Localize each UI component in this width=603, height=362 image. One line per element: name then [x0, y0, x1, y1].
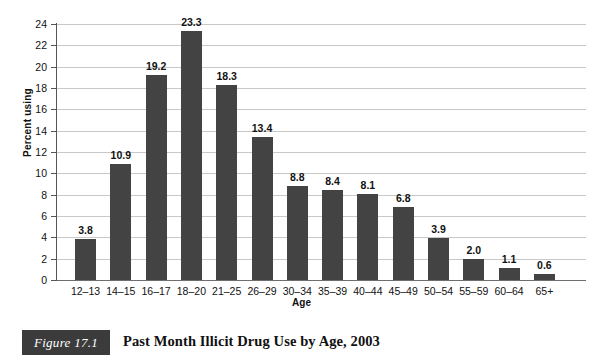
bar [252, 137, 273, 280]
bar [357, 194, 378, 280]
figure-caption: Figure 17.1 Past Month Illicit Drug Use … [0, 326, 603, 362]
y-axis-tick-label: 24 [7, 19, 47, 29]
bar [463, 259, 484, 280]
x-axis-title: Age [0, 297, 603, 308]
gridline [57, 88, 586, 89]
bar-chart: Percent using 024681012141618202224 3.81… [0, 0, 603, 318]
bar [146, 75, 167, 280]
figure-container: Percent using 024681012141618202224 3.81… [0, 0, 603, 362]
gridline [57, 45, 586, 46]
bar [216, 85, 237, 280]
y-axis-tick-label: 12 [7, 147, 47, 157]
y-axis-tick-label: 2 [7, 254, 47, 264]
gridline [57, 24, 586, 25]
bar-value-label: 8.1 [345, 180, 391, 191]
bar [428, 238, 449, 280]
bar-value-label: 3.9 [416, 224, 462, 235]
figure-number-badge: Figure 17.1 [22, 330, 110, 355]
y-axis-title: Percent using [22, 63, 33, 183]
y-axis-tick-label: 18 [7, 83, 47, 93]
bar [75, 239, 96, 280]
y-axis-tick-label: 4 [7, 232, 47, 242]
y-axis-tick-label: 10 [7, 168, 47, 178]
y-axis-tick-label: 14 [7, 126, 47, 136]
bar-value-label: 3.8 [63, 225, 109, 236]
y-axis-tick-label: 8 [7, 190, 47, 200]
figure-caption-text: Past Month Illicit Drug Use by Age, 2003 [123, 333, 380, 350]
bar [322, 190, 343, 280]
y-axis-tick-label: 16 [7, 104, 47, 114]
bar-value-label: 23.3 [168, 17, 214, 28]
bar [534, 274, 555, 280]
bar [499, 268, 520, 280]
bar [393, 207, 414, 280]
y-axis-tick-label: 6 [7, 211, 47, 221]
bar [110, 164, 131, 280]
gridline [57, 131, 586, 132]
gridline [57, 109, 586, 110]
y-axis-tick-label: 20 [7, 62, 47, 72]
bar [287, 186, 308, 280]
bar-value-label: 0.6 [521, 260, 567, 271]
bar-value-label: 6.8 [380, 193, 426, 204]
gridline [57, 173, 586, 174]
y-axis-tick-label: 0 [7, 275, 47, 285]
bar-value-label: 19.2 [133, 61, 179, 72]
bar-value-label: 18.3 [204, 71, 250, 82]
gridline [57, 280, 586, 281]
bar-value-label: 10.9 [98, 150, 144, 161]
bar-value-label: 13.4 [239, 123, 285, 134]
x-axis-tick-label: 65+ [521, 286, 567, 297]
y-axis-tick-label: 22 [7, 40, 47, 50]
bar [181, 31, 202, 280]
